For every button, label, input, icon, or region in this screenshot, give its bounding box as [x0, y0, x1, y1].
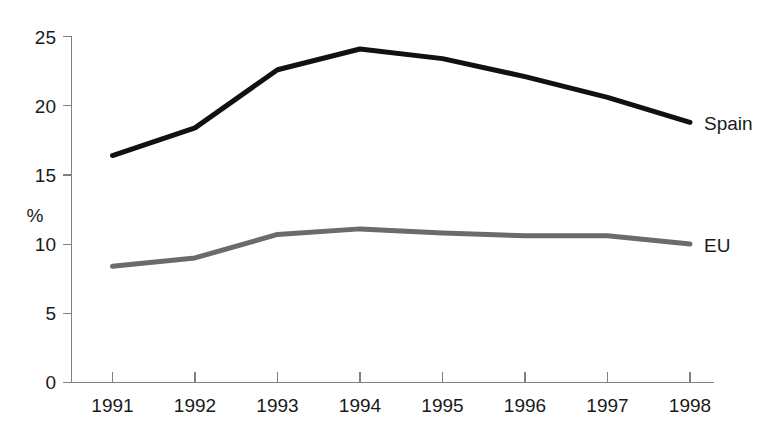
- chart-background: [0, 0, 768, 440]
- series-label-spain: Spain: [704, 113, 753, 134]
- y-tick-label-20: 20: [35, 96, 56, 117]
- y-axis-title: %: [27, 205, 44, 226]
- unemployment-rate-line-chart: 0 5 10 15 20 25 % 1991 1992 1993 1994 19…: [0, 0, 768, 440]
- y-tick-label-25: 25: [35, 27, 56, 48]
- y-tick-label-5: 5: [45, 303, 56, 324]
- x-tick-label-1995: 1995: [421, 395, 463, 416]
- y-tick-label-15: 15: [35, 165, 56, 186]
- chart-canvas: 0 5 10 15 20 25 % 1991 1992 1993 1994 19…: [0, 0, 768, 440]
- x-tick-label-1993: 1993: [256, 395, 298, 416]
- x-tick-label-1991: 1991: [91, 395, 133, 416]
- x-tick-label-1996: 1996: [504, 395, 546, 416]
- x-tick-label-1992: 1992: [174, 395, 216, 416]
- x-tick-label-1997: 1997: [586, 395, 628, 416]
- y-tick-label-10: 10: [35, 234, 56, 255]
- x-tick-label-1994: 1994: [339, 395, 382, 416]
- series-label-eu: EU: [704, 235, 730, 256]
- x-tick-label-1998: 1998: [669, 395, 711, 416]
- y-tick-label-0: 0: [45, 372, 56, 393]
